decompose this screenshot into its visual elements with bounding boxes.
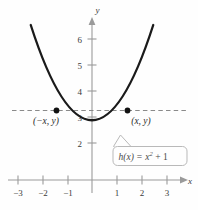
x-axis-label: x	[187, 176, 192, 186]
y-axis-arrowhead	[89, 17, 96, 25]
graph-figure: −3 −2 −1 1 2 3 2 3 4 5 6 x y	[0, 0, 198, 210]
equation-plus: +	[155, 152, 160, 162]
callout-leader-line	[114, 135, 132, 147]
parabola-plot: −3 −2 −1 1 2 3 2 3 4 5 6 x y	[0, 0, 198, 210]
y-tick-label-5: 5	[78, 61, 83, 71]
x-tick-label-3: 3	[165, 188, 170, 198]
point-marker-left	[54, 108, 60, 114]
equation-constant: 1	[163, 152, 168, 162]
x-tick-label--1: −1	[63, 188, 73, 198]
x-tick-label-2: 2	[140, 188, 145, 198]
y-tick-label-6: 6	[78, 35, 83, 45]
x-tick-label--2: −2	[38, 188, 48, 198]
equation-arg: (x)	[123, 152, 134, 163]
x-axis-arrowhead	[180, 177, 188, 184]
y-tick-labels: 2 3 4 5 6	[78, 35, 83, 149]
y-tick-label-4: 4	[78, 87, 83, 97]
equation-equals: =	[137, 152, 142, 162]
y-axis-label: y	[95, 5, 100, 15]
x-tick-label--3: −3	[13, 188, 23, 198]
y-tick-label-2: 2	[78, 139, 83, 149]
axes-group	[8, 17, 188, 193]
x-tick-label-1: 1	[115, 188, 120, 198]
point-label-right: (x, y)	[131, 116, 151, 127]
point-marker-right	[125, 108, 131, 114]
point-label-left: (−x, y)	[33, 116, 59, 127]
